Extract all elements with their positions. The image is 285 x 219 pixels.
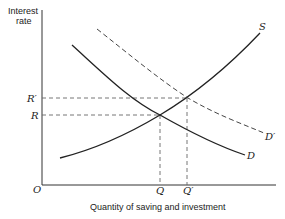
demand-curve-d	[72, 45, 245, 155]
q-prime-label: Q′	[183, 185, 194, 196]
x-axis-title: Quantity of saving and investment	[90, 202, 226, 212]
d-curve-label: D	[246, 150, 255, 161]
y-axis-title-line2: rate	[16, 16, 32, 26]
demand-curve-d-prime	[97, 29, 264, 133]
q-label: Q	[156, 185, 164, 196]
origin-label: O	[33, 184, 41, 195]
supply-demand-diagram: Interest rate Quantity of saving and inv…	[0, 0, 285, 219]
y-axis-title-line1: Interest	[8, 6, 39, 16]
d-prime-curve-label: D′	[264, 131, 276, 142]
r-prime-label: R′	[26, 93, 38, 104]
r-label: R	[30, 110, 39, 121]
s-curve-label: S	[259, 21, 266, 32]
